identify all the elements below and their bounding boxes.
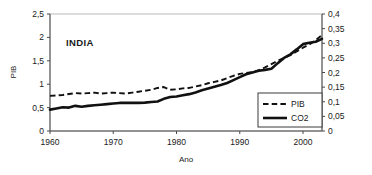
y-tick-label-right: 0,2 <box>328 68 340 78</box>
y-tick-label-right: 0,3 <box>328 38 340 48</box>
chart-annotation-country: INDIA <box>66 37 94 48</box>
y-tick-label-right: 0,35 <box>328 24 345 34</box>
y-tick-label-right: 0,4 <box>328 9 340 19</box>
x-tick-label: 1990 <box>230 137 249 147</box>
y-tick-label-left: 1,5 <box>32 56 44 66</box>
y-axis-left-tick-labels: 00,511,522,5 <box>32 9 44 136</box>
x-tick-label: 1970 <box>104 137 123 147</box>
legend-label-co2: CO2 <box>291 113 309 123</box>
y-tick-label-right: 0 <box>328 126 333 136</box>
y-tick-label-left: 2,5 <box>32 9 44 19</box>
y-tick-label-right: 0,25 <box>328 53 345 63</box>
y-tick-label-right: 0,1 <box>328 97 340 107</box>
legend-label-pib: PIB <box>291 99 305 109</box>
x-axis-tick-labels: 19601970198019902000 <box>41 137 313 147</box>
y-tick-label-right: 0,15 <box>328 82 345 92</box>
chart-container: 00,511,522,5 00,050,10,150,20,250,30,350… <box>0 0 372 175</box>
x-tick-label: 1960 <box>41 137 60 147</box>
y-tick-label-left: 0 <box>39 126 44 136</box>
x-tick-label: 2000 <box>294 137 313 147</box>
x-tick-label: 1980 <box>167 137 186 147</box>
y-axis-right-tick-labels: 00,050,10,150,20,250,30,350,4 <box>328 9 345 136</box>
y-tick-label-left: 0,5 <box>32 103 44 113</box>
chart-legend: PIB CO2 <box>258 93 322 127</box>
legend-box <box>258 93 322 127</box>
y-axis-left-title: PIB <box>9 66 18 79</box>
y-tick-label-left: 1 <box>39 79 44 89</box>
x-axis-title: Ano <box>179 155 194 164</box>
y-tick-label-left: 2 <box>39 32 44 42</box>
line-chart: 00,511,522,5 00,050,10,150,20,250,30,350… <box>0 0 372 175</box>
y-tick-label-right: 0,05 <box>328 111 345 121</box>
